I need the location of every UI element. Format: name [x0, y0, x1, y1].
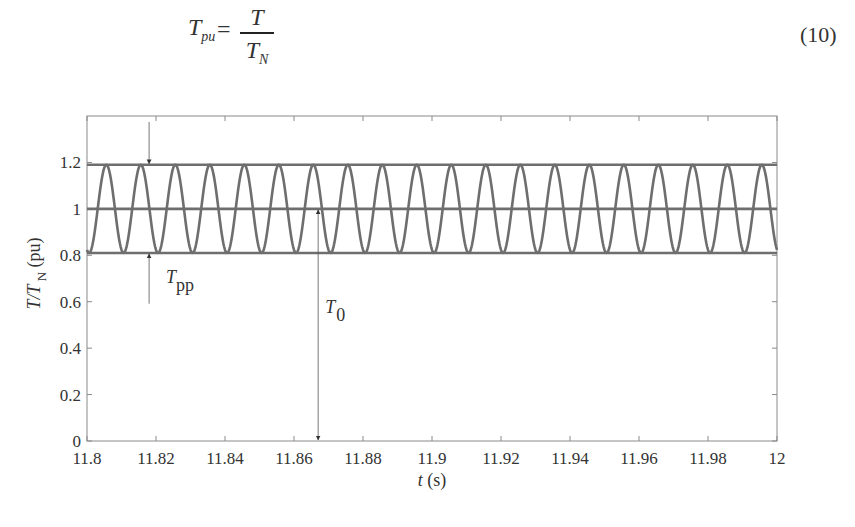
x-tick-label: 11.94: [551, 449, 589, 468]
x-tick-label: 11.9: [417, 449, 446, 468]
x-tick-label: 12: [769, 449, 786, 468]
y-tick-label: 1.2: [60, 153, 81, 172]
x-tick-label: 11.96: [620, 449, 658, 468]
y-tick-label: 0.8: [60, 246, 81, 265]
y-axis-label: T/T N (pu): [24, 237, 49, 309]
y-tick-label: 0.6: [60, 293, 81, 312]
x-tick-label: 11.82: [137, 449, 175, 468]
y-tick-label: 0: [73, 432, 82, 451]
t0-subscript: 0: [336, 305, 345, 325]
y-tick-label: 1: [73, 200, 82, 219]
x-tick-label: 11.88: [344, 449, 382, 468]
x-axis-label: t (s): [418, 470, 447, 491]
torque-chart: 11.811.8211.8411.8611.8811.911.9211.9411…: [0, 0, 855, 527]
y-tick-label: 0.4: [60, 339, 82, 358]
tpp-subscript: pp: [176, 275, 194, 295]
y-tick-label: 0.2: [60, 386, 81, 405]
x-tick-label: 11.92: [482, 449, 520, 468]
x-tick-label: 11.98: [689, 449, 727, 468]
x-tick-label: 11.86: [275, 449, 313, 468]
x-tick-label: 11.8: [72, 449, 101, 468]
x-tick-label: 11.84: [206, 449, 244, 468]
